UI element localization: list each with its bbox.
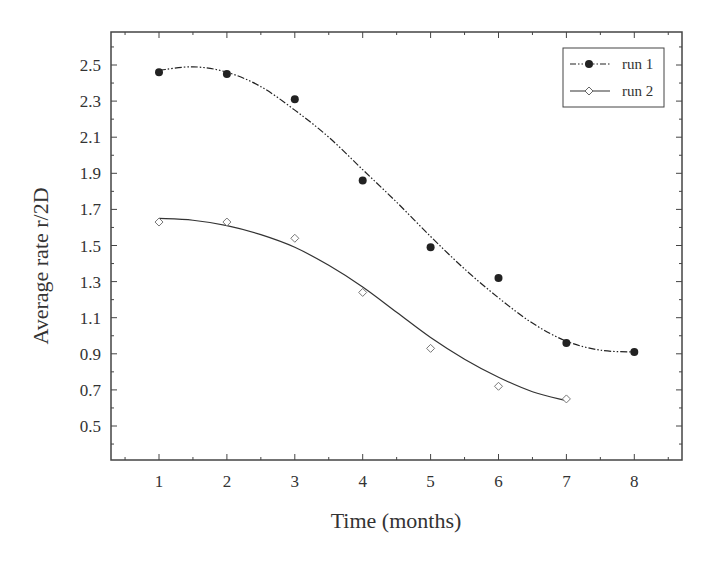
data-point-filled-circle-icon (291, 95, 299, 103)
x-tick-label: 1 (155, 472, 164, 491)
x-tick-label: 7 (562, 472, 571, 491)
x-tick-label: 6 (494, 472, 503, 491)
legend: run 1 run 2 (563, 48, 664, 107)
y-tick-label: 1.5 (80, 237, 101, 256)
y-tick-label: 1.9 (80, 164, 101, 183)
y-tick-label: 2.3 (80, 92, 101, 111)
x-tick-label: 4 (358, 472, 367, 491)
y-tick-label: 2.1 (80, 128, 101, 147)
chart: 12345678 0.50.70.91.11.31.51.71.92.12.32… (0, 0, 714, 562)
x-tick-label: 8 (630, 472, 639, 491)
data-point-filled-circle-icon (630, 348, 638, 356)
x-tick-label: 3 (291, 472, 300, 491)
data-point-filled-circle-icon (359, 177, 367, 185)
legend-label-run-1: run 1 (622, 56, 653, 72)
data-point-filled-circle-icon (427, 243, 435, 251)
y-tick-label: 1.1 (80, 309, 101, 328)
legend-label-run-2: run 2 (622, 83, 653, 99)
y-tick-label: 2.5 (80, 56, 101, 75)
y-tick-label: 0.5 (80, 417, 101, 436)
y-axis-label: Average rate r/2D (28, 187, 53, 344)
data-point-filled-circle-icon (155, 68, 163, 76)
y-tick-label: 1.7 (80, 200, 102, 219)
y-tick-label: 0.9 (80, 345, 101, 364)
data-point-filled-circle-icon (562, 339, 570, 347)
data-point-filled-circle-icon (223, 70, 231, 78)
x-tick-label: 5 (426, 472, 435, 491)
x-tick-label: 2 (223, 472, 232, 491)
legend-marker-filled-circle-icon (585, 60, 593, 68)
y-tick-label: 1.3 (80, 273, 101, 292)
x-axis-label: Time (months) (331, 508, 462, 533)
data-point-filled-circle-icon (495, 274, 503, 282)
y-tick-label: 0.7 (80, 381, 102, 400)
